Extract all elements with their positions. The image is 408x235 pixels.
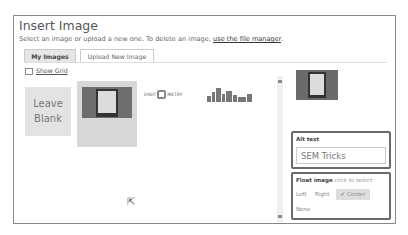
float-image-label: Float image click to select [296, 177, 372, 183]
screenshot-thumbnail-image [82, 87, 132, 118]
dialog-subtitle: Select an image or upload a new one. To … [19, 35, 283, 43]
alt-text-label: Alt text [296, 136, 319, 142]
scroll-down-icon[interactable] [278, 215, 282, 218]
float-image-title: Float image [296, 177, 333, 183]
logo-text-left: DIGIT [144, 92, 156, 97]
leave-blank-option[interactable]: Leave Blank [25, 87, 71, 136]
float-image-hint: click to select [335, 177, 373, 183]
float-center-option[interactable]: ✔ Center [336, 189, 370, 200]
file-manager-link[interactable]: use the file manager [213, 35, 281, 43]
show-grid-toggle[interactable]: Show Grid [25, 67, 68, 75]
float-image-panel: Float image click to select Left Right ✔… [291, 172, 391, 220]
checkmark-icon: ✔ [341, 191, 346, 197]
subtitle-text: Select an image or upload a new one. To … [19, 35, 211, 43]
selected-image-preview [296, 70, 338, 100]
subtitle-end: . [281, 35, 283, 43]
alt-text-panel: Alt text SEM Tricks [291, 131, 391, 169]
tab-divider [24, 62, 387, 63]
show-grid-label: Show Grid [36, 67, 68, 74]
tab-my-images[interactable]: My Images [24, 49, 76, 62]
float-right-option[interactable]: Right [315, 189, 329, 200]
float-center-label: Center [347, 191, 366, 197]
dialog-title: Insert Image [19, 18, 98, 33]
tab-upload-new-image[interactable]: Upload New Image [80, 49, 154, 62]
image-thumbnail-skyline[interactable] [205, 86, 253, 104]
logo-text-right: METRY [167, 92, 182, 97]
image-thumbnail-selected[interactable] [77, 81, 137, 147]
float-none-option[interactable]: None [296, 204, 310, 215]
scroll-up-icon[interactable] [278, 80, 282, 83]
float-left-option[interactable]: Left [296, 189, 306, 200]
insert-image-dialog: Insert Image Select an image or upload a… [13, 15, 396, 224]
camera-ring-icon [157, 90, 166, 99]
image-list-scrollbar[interactable] [277, 76, 283, 222]
image-thumbnail-digitometry[interactable]: DIGITMETRY [144, 88, 192, 102]
alt-text-input[interactable]: SEM Tricks [296, 147, 386, 164]
mouse-cursor-icon: ⇱ [127, 196, 135, 207]
grid-icon [25, 68, 33, 75]
